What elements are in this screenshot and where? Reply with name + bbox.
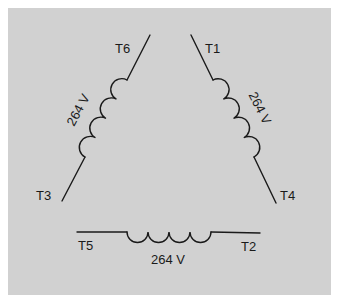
delta-winding-diagram: T6 T1 T3 T4 T5 T2 264 V 264 V 264 V [0, 0, 340, 308]
terminal-label-t4: T4 [280, 188, 295, 203]
voltage-label-bottom: 264 V [151, 252, 185, 267]
bottom-winding [77, 232, 260, 243]
voltage-label-left: 264 V [63, 91, 92, 128]
left-lead-bottom [62, 157, 85, 201]
right-coil [213, 79, 260, 157]
right-lead-bottom [254, 157, 276, 203]
terminal-label-t5: T5 [78, 238, 93, 253]
terminal-label-t1: T1 [205, 41, 220, 56]
terminal-label-t2: T2 [241, 239, 256, 254]
bottom-lead-right [211, 232, 260, 233]
voltage-label-right: 264 V [246, 89, 275, 126]
terminal-label-t3: T3 [36, 188, 51, 203]
left-coil [79, 79, 127, 157]
left-lead-top [127, 35, 150, 80]
terminal-label-t6: T6 [115, 41, 130, 56]
bottom-coil [127, 232, 211, 243]
